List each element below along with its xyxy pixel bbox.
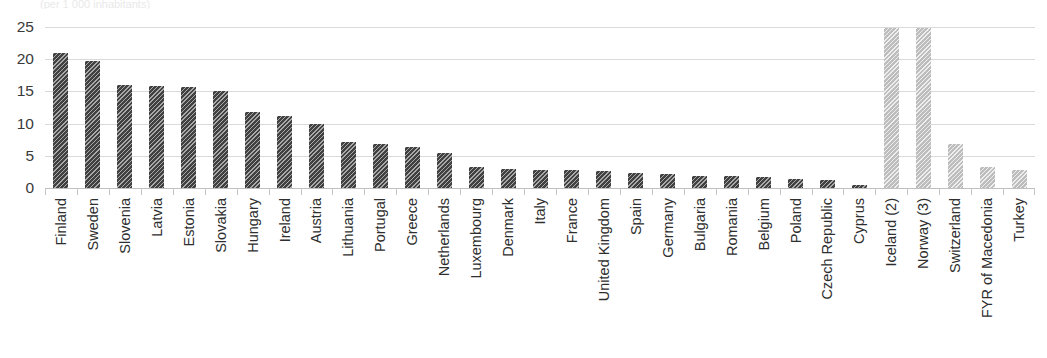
- tick-slot: [907, 188, 939, 196]
- x-label-slot: Czech Republic: [812, 196, 844, 346]
- bar-slovakia[interactable]: [213, 91, 228, 188]
- bar-poland[interactable]: [788, 179, 803, 188]
- tick-slot: [652, 188, 684, 196]
- tick-mark: [205, 188, 206, 195]
- x-axis-label-estonia: Estonia: [181, 198, 196, 246]
- bar-belgium[interactable]: [756, 177, 771, 188]
- bar-slot: [716, 20, 748, 188]
- bar-france[interactable]: [564, 170, 579, 188]
- bar-fyr-of-macedonia[interactable]: [980, 167, 995, 188]
- bar-czech-republic[interactable]: [820, 180, 835, 188]
- tick-slot: [492, 188, 524, 196]
- x-axis-label-switzerland: Switzerland: [948, 198, 963, 273]
- x-label-slot: Ireland: [269, 196, 301, 346]
- tick-slot: [556, 188, 588, 196]
- x-label-slot: United Kingdom: [588, 196, 620, 346]
- x-label-slot: FYR of Macedonia: [971, 196, 1003, 346]
- bar-switzerland[interactable]: [948, 144, 963, 188]
- x-axis-label-finland: Finland: [54, 198, 69, 246]
- bar-spain[interactable]: [628, 173, 643, 188]
- tick-slot: [812, 188, 844, 196]
- bar-norway-3[interactable]: [916, 28, 931, 188]
- x-axis-label-sweden: Sweden: [86, 198, 101, 250]
- bar-netherlands[interactable]: [437, 153, 452, 188]
- bar-slot: [748, 20, 780, 188]
- bar-slot: [205, 20, 237, 188]
- bar-italy[interactable]: [533, 170, 548, 188]
- x-label-slot: Latvia: [141, 196, 173, 346]
- y-tick-label-25: 25: [17, 19, 34, 35]
- tick-slot: [364, 188, 396, 196]
- x-label-slot: Lithuania: [332, 196, 364, 346]
- bar-germany[interactable]: [660, 174, 675, 188]
- tick-mark: [748, 188, 749, 195]
- x-axis-label-latvia: Latvia: [150, 198, 165, 237]
- bar-ireland[interactable]: [277, 116, 292, 188]
- tick-slot: [1003, 188, 1035, 196]
- x-label-slot: Turkey: [1003, 196, 1035, 346]
- bar-austria[interactable]: [309, 124, 324, 188]
- bar-estonia[interactable]: [181, 87, 196, 188]
- tick-mark: [396, 188, 397, 195]
- x-label-slot: Netherlands: [428, 196, 460, 346]
- tick-slot: [269, 188, 301, 196]
- x-axis-label-norway-3: Norway (3): [916, 198, 931, 269]
- bar-slot: [173, 20, 205, 188]
- tick-slot: [684, 188, 716, 196]
- bar-slot: [77, 20, 109, 188]
- x-label-slot: Estonia: [173, 196, 205, 346]
- bar-luxembourg[interactable]: [469, 167, 484, 188]
- x-label-slot: Romania: [716, 196, 748, 346]
- x-axis-label-turkey: Turkey: [1012, 198, 1027, 242]
- x-label-slot: Slovenia: [109, 196, 141, 346]
- bar-turkey[interactable]: [1012, 170, 1027, 188]
- bar-iceland-2[interactable]: [884, 28, 899, 188]
- tick-slot: [588, 188, 620, 196]
- bar-portugal[interactable]: [373, 144, 388, 188]
- x-label-slot: Spain: [620, 196, 652, 346]
- y-tick-label-15: 15: [17, 84, 34, 100]
- tick-slot: [109, 188, 141, 196]
- bar-romania[interactable]: [724, 176, 739, 188]
- clipped-chart-title: (per 1 000 inhabitants): [40, 0, 440, 9]
- bar-united-kingdom[interactable]: [596, 171, 611, 188]
- x-axis-label-greece: Greece: [405, 198, 420, 246]
- bar-slot: [460, 20, 492, 188]
- bar-bulgaria[interactable]: [692, 176, 707, 188]
- y-axis: 2520151050: [0, 20, 40, 195]
- tick-slot: [524, 188, 556, 196]
- bar-latvia[interactable]: [149, 86, 164, 188]
- tick-mark: [77, 188, 78, 195]
- tick-mark: [971, 188, 972, 195]
- x-label-slot: Finland: [45, 196, 77, 346]
- bar-slot: [237, 20, 269, 188]
- tick-mark: [45, 188, 46, 195]
- bar-slot: [269, 20, 301, 188]
- bar-finland[interactable]: [53, 53, 68, 188]
- x-axis-label-fyr-of-macedonia: FYR of Macedonia: [980, 198, 995, 318]
- x-axis-label-belgium: Belgium: [756, 198, 771, 250]
- x-axis-label-spain: Spain: [629, 198, 644, 235]
- bar-slovenia[interactable]: [117, 85, 132, 188]
- tick-mark: [556, 188, 557, 195]
- x-axis-labels: FinlandSwedenSloveniaLatviaEstoniaSlovak…: [45, 196, 1035, 346]
- x-axis-ticks: [45, 188, 1035, 196]
- tick-slot: [77, 188, 109, 196]
- tick-slot: [939, 188, 971, 196]
- bar-denmark[interactable]: [501, 169, 516, 188]
- bar-slot: [875, 20, 907, 188]
- bar-lithuania[interactable]: [341, 142, 356, 188]
- tick-mark: [716, 188, 717, 195]
- tick-mark: [301, 188, 302, 195]
- bar-greece[interactable]: [405, 147, 420, 188]
- bar-sweden[interactable]: [85, 61, 100, 189]
- bar-slot: [971, 20, 1003, 188]
- x-axis-label-italy: Italy: [533, 198, 548, 225]
- x-axis-label-denmark: Denmark: [501, 198, 516, 257]
- y-tick-label-0: 0: [25, 180, 34, 196]
- x-label-slot: Hungary: [237, 196, 269, 346]
- x-axis-label-slovakia: Slovakia: [213, 198, 228, 253]
- bar-hungary[interactable]: [245, 112, 260, 188]
- y-tick-label-20: 20: [17, 51, 34, 67]
- tick-slot: [780, 188, 812, 196]
